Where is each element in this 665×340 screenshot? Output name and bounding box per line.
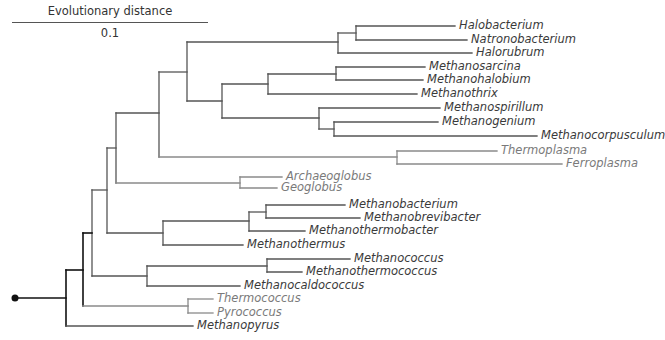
leaf-label-methanothermobacter: Methanothermobacter: [309, 224, 438, 236]
leaf-label-thermoplasma: Thermoplasma: [501, 144, 587, 156]
leaf-label-ferroplasma: Ferroplasma: [566, 157, 638, 169]
leaf-label-thermococcus: Thermococcus: [217, 292, 301, 304]
leaf-label-halorubrum: Halorubrum: [476, 46, 544, 58]
leaf-label-halobacterium: Halobacterium: [459, 19, 544, 31]
leaf-label-methanocorpusculum: Methanocorpusculum: [541, 129, 665, 141]
root-node-dot: [12, 295, 19, 302]
leaf-label-methanobacterium: Methanobacterium: [349, 198, 458, 210]
leaf-label-geoglobus: Geoglobus: [281, 181, 342, 193]
leaf-label-methanohalobium: Methanohalobium: [427, 73, 531, 85]
leaf-label-methanobrevibacter: Methanobrevibacter: [364, 211, 480, 223]
leaf-label-pyrococcus: Pyrococcus: [217, 306, 282, 318]
leaf-label-natronobacterium: Natronobacterium: [471, 33, 576, 45]
leaf-label-methanocaldococcus: Methanocaldococcus: [244, 279, 364, 291]
leaf-label-methanothermococcus: Methanothermococcus: [306, 265, 437, 277]
leaf-label-methanopyrus: Methanopyrus: [197, 319, 279, 331]
leaf-label-methanogenium: Methanogenium: [442, 115, 536, 127]
leaf-label-methanosarcina: Methanosarcina: [429, 60, 521, 72]
leaf-label-methanothrix: Methanothrix: [421, 87, 498, 99]
leaf-label-methanococcus: Methanococcus: [354, 252, 443, 264]
leaf-label-methanothermus: Methanothermus: [247, 238, 345, 250]
leaf-label-methanospirillum: Methanospirillum: [444, 101, 543, 113]
